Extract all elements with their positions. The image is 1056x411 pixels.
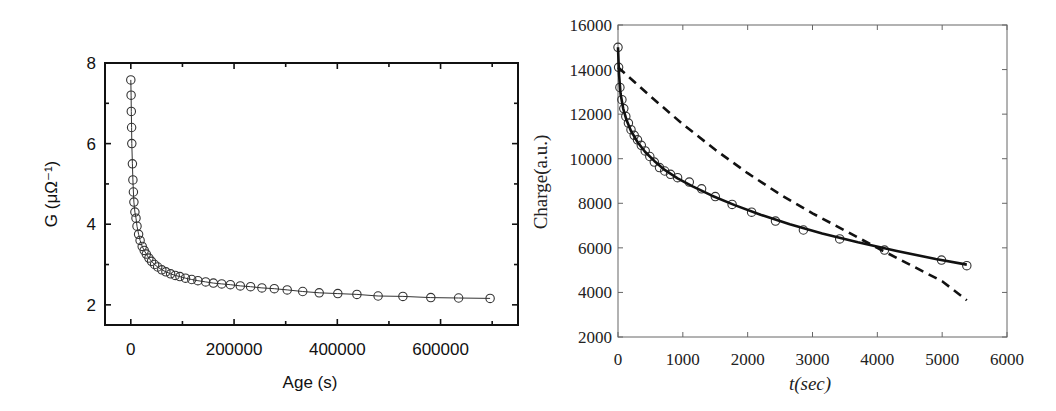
fit-dashed-line	[618, 67, 967, 300]
y-tick-label: 8000	[578, 194, 612, 213]
x-tick-label: 5000	[925, 350, 959, 369]
x-tick-label: 2000	[731, 350, 765, 369]
right-series	[614, 43, 971, 300]
x-tick-label: 200000	[206, 340, 263, 359]
y-tick-label: 8	[87, 54, 96, 73]
x-tick-label: 3000	[796, 350, 830, 369]
right-chart: 0100020003000400050006000200040006000800…	[530, 16, 1024, 395]
right-plot-frame	[618, 25, 1007, 337]
right-x-axis-label: t(sec)	[789, 373, 831, 395]
right-tick-labels: 0100020003000400050006000200040006000800…	[570, 16, 1025, 369]
left-axis-ticks	[105, 63, 518, 325]
series-line	[131, 80, 490, 299]
x-tick-label: 1000	[666, 350, 700, 369]
y-tick-label: 12000	[570, 105, 613, 124]
y-tick-label: 4000	[578, 283, 612, 302]
left-x-axis-label: Age (s)	[283, 373, 338, 392]
left-y-axis-label: G (μΩ⁻¹)	[42, 161, 61, 227]
left-chart: 02000004000006000002468 Age (s) G (μΩ⁻¹)	[42, 54, 518, 392]
left-series	[127, 76, 495, 303]
y-tick-label: 2000	[578, 328, 612, 347]
fit-solid-line	[618, 47, 967, 264]
x-tick-label: 4000	[860, 350, 894, 369]
x-tick-label: 600000	[412, 340, 469, 359]
y-tick-label: 2	[87, 296, 96, 315]
x-tick-label: 400000	[309, 340, 366, 359]
right-axis-ticks	[618, 25, 1007, 337]
x-tick-label: 0	[614, 350, 623, 369]
left-plot-frame	[105, 63, 518, 325]
right-y-axis-label: Charge(a.u.)	[530, 135, 552, 230]
x-tick-label: 6000	[990, 350, 1024, 369]
x-tick-label: 0	[126, 340, 135, 359]
y-tick-label: 6000	[578, 239, 612, 258]
y-tick-label: 10000	[570, 150, 613, 169]
y-tick-label: 14000	[570, 61, 613, 80]
y-tick-label: 16000	[570, 16, 613, 35]
left-tick-labels: 02000004000006000002468	[87, 54, 469, 359]
y-tick-label: 6	[87, 135, 96, 154]
figure: 02000004000006000002468 Age (s) G (μΩ⁻¹)…	[0, 0, 1056, 411]
y-tick-label: 4	[87, 215, 96, 234]
